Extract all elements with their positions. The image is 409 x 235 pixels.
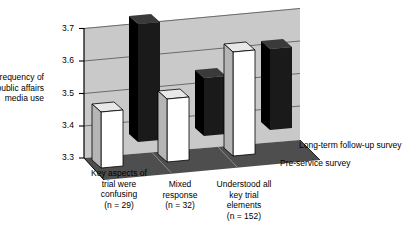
- bar-front-row-group-1: [92, 102, 123, 168]
- bar-back-row-group-2: [195, 68, 226, 136]
- bar-back-1-front: [138, 22, 160, 142]
- bar-front-2-face: [167, 97, 189, 162]
- bar-front-2-side: [158, 91, 167, 162]
- y-axis-title-line-3: media use: [0, 93, 44, 104]
- y-axis-title: Frequency of public affairs media use: [0, 72, 44, 104]
- bar-back-row-group-3: [261, 39, 292, 130]
- bar-back-row-group-1: [129, 14, 160, 142]
- category-label-3-line-2: key trial: [199, 190, 289, 201]
- bar-back-3-front: [270, 47, 292, 130]
- y-axis-title-line-1: Frequency of: [0, 72, 44, 83]
- category-label-3-line-3: elements: [199, 200, 289, 211]
- bar-back-2-side: [195, 70, 204, 136]
- y-tick-label-3.3: 3.3: [52, 152, 74, 162]
- bar-front-row-group-3: [224, 42, 255, 156]
- y-axis-title-line-2: public affairs: [0, 83, 44, 94]
- category-label-1-line-1: Key aspects of: [78, 168, 160, 179]
- y-tick-marks: [79, 29, 84, 159]
- chart-container: 3.7 3.6 3.5 3.4 3.3 Frequency of public …: [0, 0, 409, 235]
- bar-back-3-side: [261, 41, 270, 130]
- bar-back-2-front: [204, 76, 226, 136]
- bar-front-1-face: [101, 110, 123, 168]
- bar-front-3-side: [224, 44, 233, 156]
- bar-front-1-side: [92, 104, 101, 168]
- category-label-3-line-1: Understood all: [199, 179, 289, 190]
- legend-item-pre-service-survey: Pre-service survey: [280, 158, 350, 168]
- y-tick-label-3.5: 3.5: [52, 88, 74, 98]
- y-tick-label-3.7: 3.7: [52, 23, 74, 33]
- category-label-3: Understood all key trial elements (n = 1…: [199, 179, 289, 221]
- bar-front-row-group-2: [158, 89, 189, 162]
- category-label-3-line-4: (n = 152): [199, 211, 289, 222]
- bar-back-1-side: [129, 16, 138, 142]
- y-tick-label-3.4: 3.4: [52, 120, 74, 130]
- legend-item-long-term-follow-up-survey: Long-term follow-up survey: [299, 140, 402, 150]
- y-tick-label-3.6: 3.6: [52, 55, 74, 65]
- bar-front-3-face: [233, 50, 255, 156]
